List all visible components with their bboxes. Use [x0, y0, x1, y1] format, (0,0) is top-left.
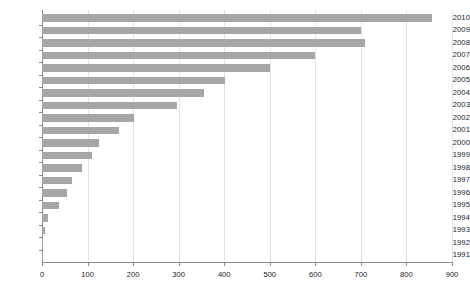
bar-row — [42, 187, 452, 199]
y-axis-tick — [39, 75, 42, 76]
x-axis-tick-label: 200 — [118, 270, 148, 279]
x-axis-tick-label: 100 — [73, 270, 103, 279]
x-axis-tick — [88, 262, 89, 266]
bar-row — [42, 100, 452, 112]
y-axis-tick — [39, 212, 42, 213]
x-axis-tick-label: 400 — [209, 270, 239, 279]
x-axis-tick-label: 700 — [346, 270, 376, 279]
y-axis-tick — [39, 50, 42, 51]
bar — [42, 52, 315, 60]
x-axis-tick — [42, 262, 43, 266]
y-axis-tick-label: 2002 — [432, 114, 470, 122]
y-axis-tick-label: 1993 — [432, 226, 470, 234]
y-axis-tick-label: 1994 — [432, 214, 470, 222]
y-axis-tick — [39, 150, 42, 151]
bar-row — [42, 125, 452, 137]
x-axis-tick — [224, 262, 225, 266]
y-axis-tick — [39, 125, 42, 126]
x-axis-tick — [270, 262, 271, 266]
y-axis-tick — [39, 62, 42, 63]
bar — [42, 177, 72, 185]
bar — [42, 39, 365, 47]
y-axis-tick-label: 1992 — [432, 239, 470, 247]
y-axis-tick — [39, 175, 42, 176]
bar-row — [42, 12, 452, 24]
x-axis-tick-label: 600 — [300, 270, 330, 279]
y-axis-tick-label: 2001 — [432, 126, 470, 134]
x-axis-tick — [315, 262, 316, 266]
bar-row — [42, 175, 452, 187]
bar-row — [42, 250, 452, 262]
x-axis-tick-label: 900 — [437, 270, 467, 279]
x-axis-tick-label: 500 — [255, 270, 285, 279]
y-axis-tick — [39, 250, 42, 251]
bar — [42, 114, 134, 122]
bar — [42, 64, 270, 72]
bar — [42, 252, 43, 260]
y-axis-tick — [39, 87, 42, 88]
bar-row — [42, 200, 452, 212]
y-axis-tick — [39, 112, 42, 113]
bar-row — [42, 162, 452, 174]
y-axis-tick-label: 2008 — [432, 39, 470, 47]
y-axis-tick — [39, 162, 42, 163]
y-axis-tick-label: 2009 — [432, 26, 470, 34]
x-axis-line — [42, 262, 453, 263]
x-axis-tick — [406, 262, 407, 266]
bar — [42, 89, 204, 97]
bar-row — [42, 112, 452, 124]
bar-row — [42, 212, 452, 224]
y-axis-tick-label: 2003 — [432, 101, 470, 109]
y-axis-tick — [39, 237, 42, 238]
bar-row — [42, 225, 452, 237]
y-axis-tick-label: 2006 — [432, 64, 470, 72]
bar — [42, 102, 177, 110]
x-axis-tick-label: 0 — [27, 270, 57, 279]
y-axis-tick-label: 1995 — [432, 201, 470, 209]
bar — [42, 202, 59, 210]
bar — [42, 189, 67, 197]
bar — [42, 164, 82, 172]
bar — [42, 27, 361, 35]
y-axis-tick-label: 1998 — [432, 164, 470, 172]
y-axis-tick-label: 1999 — [432, 151, 470, 159]
y-axis-tick-label: 2010 — [432, 14, 470, 22]
y-axis-tick-label: 2005 — [432, 76, 470, 84]
y-axis-tick — [39, 100, 42, 101]
bar-row — [42, 50, 452, 62]
bar — [42, 152, 92, 160]
bar-chart: 2010200920082007200620052004200320022001… — [0, 0, 470, 296]
bar — [42, 77, 225, 85]
bar — [42, 14, 432, 22]
x-axis-tick-label: 800 — [391, 270, 421, 279]
y-axis-tick — [39, 37, 42, 38]
bar — [42, 227, 45, 235]
y-axis-tick-label: 1996 — [432, 189, 470, 197]
y-axis-tick-label: 1991 — [432, 251, 470, 259]
bar — [42, 214, 48, 222]
y-axis-tick — [39, 200, 42, 201]
x-axis-tick — [361, 262, 362, 266]
y-axis-tick — [39, 25, 42, 26]
bar-row — [42, 25, 452, 37]
bar — [42, 239, 43, 247]
x-axis-tick — [133, 262, 134, 266]
y-axis-tick — [39, 225, 42, 226]
bar-row — [42, 62, 452, 74]
bar-row — [42, 75, 452, 87]
bar — [42, 139, 99, 147]
y-axis-tick-label: 2000 — [432, 139, 470, 147]
bar-row — [42, 150, 452, 162]
bar-row — [42, 137, 452, 149]
bar — [42, 127, 119, 135]
y-axis-tick — [39, 137, 42, 138]
y-axis-tick-label: 1997 — [432, 176, 470, 184]
x-axis-tick-label: 300 — [164, 270, 194, 279]
y-axis-tick-label: 2004 — [432, 89, 470, 97]
x-axis-tick — [179, 262, 180, 266]
bar-row — [42, 37, 452, 49]
x-axis-tick — [452, 262, 453, 266]
y-axis-tick-label: 2007 — [432, 51, 470, 59]
y-axis-tick — [39, 187, 42, 188]
bar-row — [42, 87, 452, 99]
